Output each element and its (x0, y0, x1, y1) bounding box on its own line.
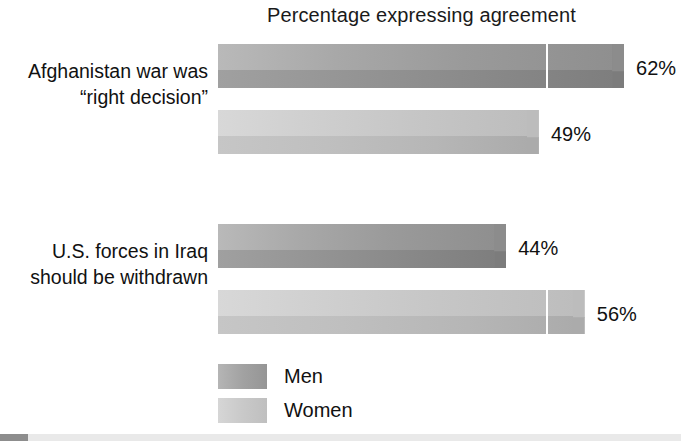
bar-body (218, 44, 614, 88)
bar-chart: Percentage expressing agreement Afghanis… (0, 0, 681, 447)
value-label-56: 56% (597, 303, 637, 325)
gridline-50-percent (546, 44, 548, 88)
legend-item-men[interactable]: Men (218, 362, 353, 390)
bar-band-top (218, 290, 575, 316)
bar-women-afghanistan[interactable] (218, 110, 539, 154)
gridline-50-percent (546, 290, 548, 334)
bar-body (218, 110, 529, 154)
bar-band-bottom (218, 136, 529, 154)
legend-swatch-men-icon (218, 364, 267, 389)
plot-area: 62% 49% 44% 56% (0, 0, 681, 360)
value-label-62: 62% (636, 57, 676, 79)
value-label-44: 44% (518, 237, 558, 259)
value-label-49: 49% (551, 123, 591, 145)
bottom-rule (0, 434, 681, 441)
legend-swatch-women-icon (218, 398, 267, 423)
bar-band-top (218, 44, 614, 70)
bar-band-bottom (218, 250, 496, 268)
bar-men-afghanistan[interactable] (218, 44, 624, 88)
legend-label-men: Men (284, 365, 323, 387)
bar-women-iraq[interactable] (218, 290, 585, 334)
bottom-left-mark (0, 434, 28, 441)
legend: Men Women (218, 362, 353, 430)
bar-body (218, 224, 496, 268)
bar-men-iraq[interactable] (218, 224, 506, 268)
bar-band-top (218, 110, 529, 136)
legend-label-women: Women (284, 399, 353, 421)
legend-item-women[interactable]: Women (218, 396, 353, 424)
bar-body (218, 290, 575, 334)
bar-band-bottom (218, 70, 614, 88)
bar-band-top (218, 224, 496, 250)
bar-band-bottom (218, 316, 575, 334)
